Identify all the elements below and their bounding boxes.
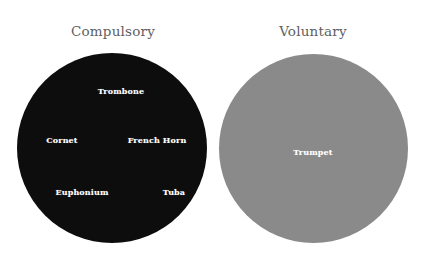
item-label-trombone: Trombone [98, 87, 144, 95]
item-label-euphonium: Euphonium [55, 188, 108, 196]
set-circle-compulsory [17, 53, 207, 243]
set-title-compulsory: Compulsory [0, 25, 226, 39]
item-label-tuba: Tuba [163, 188, 185, 196]
item-label-french-horn: French Horn [128, 136, 187, 144]
item-label-trumpet: Trumpet [293, 148, 332, 156]
item-label-cornet: Cornet [46, 136, 77, 144]
venn-diagram-figure: Compulsory Voluntary Trombone Cornet Fre… [0, 0, 431, 267]
set-title-voluntary: Voluntary [200, 25, 426, 39]
